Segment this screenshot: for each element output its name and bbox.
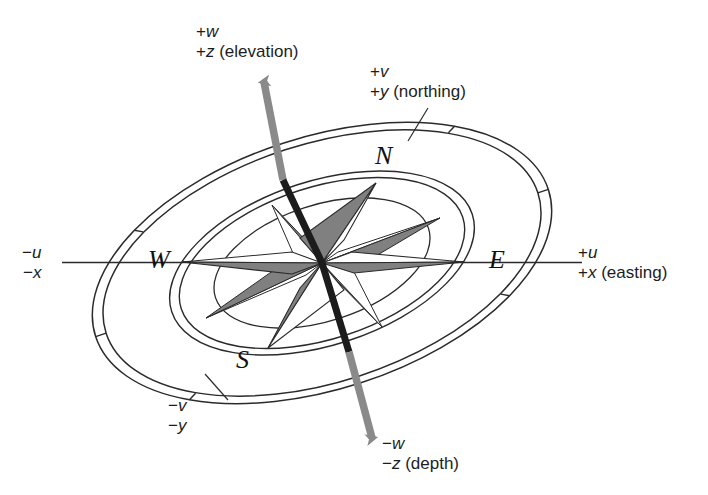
label-westing-line1: −u — [22, 243, 41, 263]
label-northing-axis: +v +y (northing) — [370, 62, 466, 102]
label-westing-line2: −x — [22, 263, 41, 283]
cardinal-label-west: W — [148, 245, 170, 276]
ring-tick-e — [538, 189, 548, 192]
cardinal-label-south: S — [236, 345, 249, 376]
label-northing-line2: +y (northing) — [370, 82, 466, 102]
label-depth-line2: −z (depth) — [382, 454, 459, 474]
label-elevation-line2: +z (elevation) — [196, 42, 299, 62]
figure-canvas: +w +z (elevation) +v +y (northing) +u +x… — [0, 0, 708, 495]
star-point-east — [322, 252, 464, 273]
ring-tick-sw — [188, 393, 197, 399]
label-depth-axis: −w −z (depth) — [382, 434, 459, 474]
leader-line-southing — [205, 374, 228, 400]
label-southing-axis: −v −y — [168, 396, 186, 436]
cardinal-label-east: E — [489, 245, 505, 276]
ring-tick-ne — [447, 126, 456, 132]
label-depth-line1: −w — [382, 434, 459, 454]
cardinal-label-north: N — [375, 141, 392, 172]
label-northing-line1: +v — [370, 62, 466, 82]
w-positive-outer-shaft — [264, 82, 283, 180]
label-elevation-axis: +w +z (elevation) — [196, 22, 299, 62]
label-southing-line2: −y — [168, 416, 186, 436]
label-easting-line2: +x (easting) — [578, 263, 667, 283]
leader-line-northing — [408, 108, 428, 141]
label-westing-axis: −u −x — [22, 243, 41, 283]
label-southing-line1: −v — [168, 396, 186, 416]
label-easting-line1: +u — [578, 243, 667, 263]
star-point-west — [182, 252, 322, 274]
label-elevation-line1: +w — [196, 22, 299, 42]
ring-tick-w — [96, 333, 106, 336]
label-easting-axis: +u +x (easting) — [578, 243, 667, 283]
w-negative-outer-shaft — [349, 352, 372, 438]
